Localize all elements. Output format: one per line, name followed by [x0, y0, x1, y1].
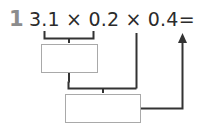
brace-under-first-product-and-third-factor [69, 82, 137, 94]
line-from-answer-box-1 [69, 73, 70, 82]
equation-expression: 3.1 × 0.2 × 0.4= [29, 10, 195, 29]
result-arrow-up [141, 33, 187, 109]
problem-number: 1 [9, 9, 24, 30]
brace-under-first-two-factors [45, 31, 94, 43]
answer-box-first-product[interactable] [41, 44, 98, 73]
answer-box-final-product[interactable] [65, 94, 141, 123]
worksheet-problem: 1 3.1 × 0.2 × 0.4= [0, 0, 206, 135]
